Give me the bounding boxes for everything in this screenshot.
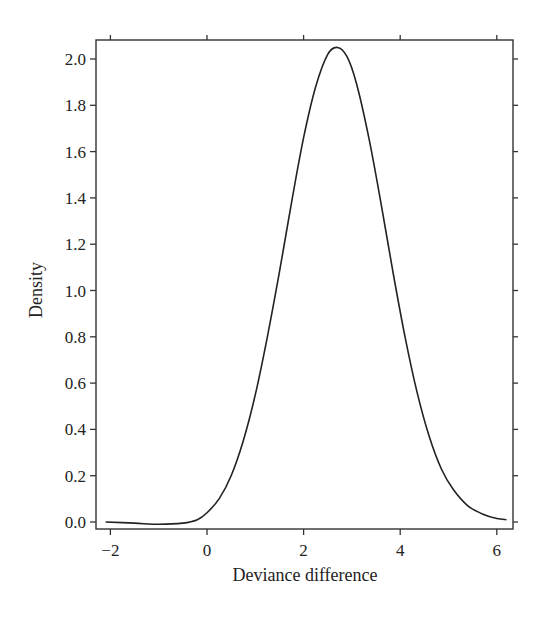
y-tick-label: 0.8 (65, 328, 86, 347)
x-tick-label: −2 (101, 541, 119, 560)
y-tick-label: 1.4 (65, 189, 87, 208)
y-tick-label: 0.0 (65, 513, 86, 532)
y-tick-label: 2.0 (65, 50, 86, 69)
density-chart: −20246 0.00.20.40.60.81.01.21.41.61.82.0… (0, 0, 546, 624)
plot-border (96, 40, 513, 529)
y-tick-label: 1.8 (65, 96, 86, 115)
y-tick-label: 0.6 (65, 374, 86, 393)
x-tick-label: 2 (299, 541, 308, 560)
y-axis-title: Density (26, 262, 46, 318)
y-tick-label: 1.2 (65, 235, 86, 254)
plot-frame (96, 40, 513, 529)
x-tick-label: 6 (493, 541, 502, 560)
x-axis-title: Deviance difference (232, 565, 377, 585)
x-tick-label: 0 (203, 541, 212, 560)
y-tick-label: 1.0 (65, 282, 86, 301)
x-axis: −20246 (101, 35, 501, 560)
y-axis: 0.00.20.40.60.81.01.21.41.61.82.0 (65, 50, 518, 532)
density-curve (106, 47, 507, 524)
y-tick-label: 0.2 (65, 467, 86, 486)
x-tick-label: 4 (396, 541, 405, 560)
y-tick-label: 1.6 (65, 143, 86, 162)
y-tick-label: 0.4 (65, 420, 87, 439)
